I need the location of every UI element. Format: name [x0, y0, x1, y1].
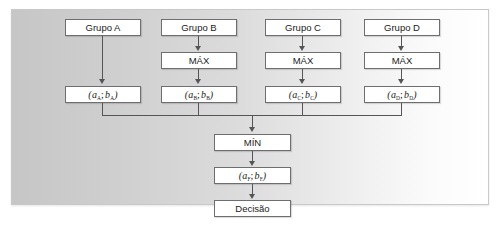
node-group-d: Grupo D	[364, 19, 440, 36]
node-pair-a-label: (aA; bA)	[88, 90, 117, 100]
node-pair-c: (aC; bC)	[265, 86, 341, 103]
node-decision: Decisão	[214, 200, 291, 217]
connector-a-group-to-pair	[102, 36, 103, 80]
arrowhead-d-max	[398, 46, 404, 51]
node-max-b: MÁX	[161, 52, 237, 69]
node-max-d-label: MÁX	[392, 56, 413, 66]
node-decision-label: Decisão	[235, 204, 269, 214]
diagram-panel: Grupo A (aA; bA) Grupo B MÁX (aB; bB) Gr…	[11, 9, 489, 205]
arrowhead-decision	[249, 194, 255, 199]
node-group-c: Grupo C	[265, 19, 341, 36]
arrowhead-min	[249, 127, 255, 132]
node-group-b-label: Grupo B	[181, 23, 216, 33]
node-group-d-label: Grupo D	[384, 23, 420, 33]
node-max-c-label: MÁX	[293, 56, 314, 66]
node-max-b-label: MÁX	[189, 56, 210, 66]
arrowhead-c-max	[299, 46, 305, 51]
connector-pair-c-drop	[302, 103, 303, 115]
node-group-a: Grupo A	[65, 19, 141, 36]
node-pair-c-label: (aC; bC)	[289, 90, 318, 100]
connector-pair-d-drop	[401, 103, 402, 115]
arrowhead-result	[249, 161, 255, 166]
node-group-b: Grupo B	[161, 19, 237, 36]
node-pair-a: (aA; bA)	[65, 86, 141, 103]
node-group-a-label: Grupo A	[86, 23, 121, 33]
node-pair-d: (aD; bD)	[364, 86, 440, 103]
node-max-d: MÁX	[364, 52, 440, 69]
arrowhead-d-pair	[398, 79, 404, 84]
node-result-pair: (aF; bF)	[214, 167, 291, 184]
arrowhead-b-max	[195, 46, 201, 51]
node-pair-b: (aB; bB)	[161, 86, 237, 103]
node-min: MÍN	[214, 134, 291, 151]
node-pair-b-label: (aB; bB)	[185, 90, 214, 100]
arrowhead-c-pair	[299, 79, 305, 84]
arrowhead-a-pair	[99, 79, 105, 84]
arrowhead-b-pair	[195, 79, 201, 84]
connector-pair-a-drop	[102, 103, 103, 115]
node-group-c-label: Grupo C	[285, 23, 321, 33]
node-result-pair-label: (aF; bF)	[239, 171, 267, 181]
diagram-canvas: Grupo A (aA; bA) Grupo B MÁX (aB; bB) Gr…	[0, 0, 501, 232]
node-pair-d-label: (aD; bD)	[387, 90, 416, 100]
node-min-label: MÍN	[244, 138, 261, 148]
node-max-c: MÁX	[265, 52, 341, 69]
connector-pair-b-drop	[198, 103, 199, 115]
